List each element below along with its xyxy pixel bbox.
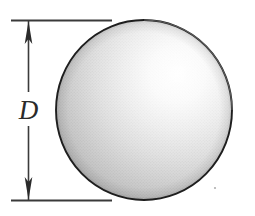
scan-speck (214, 187, 216, 189)
sphere-diameter-figure: D (0, 0, 255, 216)
sphere (54, 18, 236, 204)
dimension-label-d: D (18, 95, 39, 125)
figure-canvas: D (0, 0, 255, 216)
